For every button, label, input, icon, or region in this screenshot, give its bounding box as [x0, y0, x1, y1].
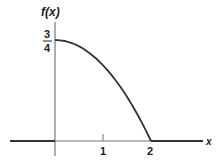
chart: f(x) x 1 2 3 4 [0, 0, 218, 161]
x-axis-label: x [205, 136, 212, 147]
y-axis-label: f(x) [41, 5, 60, 19]
x-tick-label-1: 1 [100, 145, 106, 157]
x-tick-label-2: 2 [147, 145, 153, 157]
y-tick-denominator: 4 [44, 42, 51, 54]
y-tick-numerator: 3 [44, 28, 50, 40]
density-curve [55, 40, 151, 141]
